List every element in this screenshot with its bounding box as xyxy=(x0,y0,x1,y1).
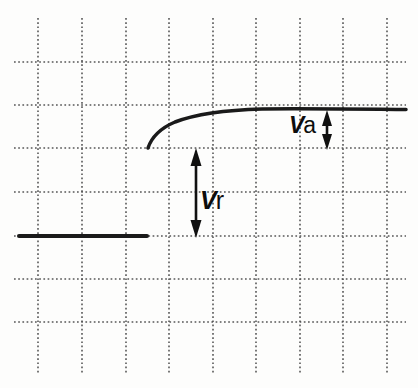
dimension-vr-arrowhead-up xyxy=(191,148,202,166)
waveform-diagram: Vr Va xyxy=(0,0,418,388)
dimension-va-symbol: V xyxy=(289,112,303,138)
dimension-va-subscript: a xyxy=(303,112,316,138)
dimension-vr-symbol: V xyxy=(200,186,216,214)
dimension-label-va: Va xyxy=(289,114,316,137)
rising-exponential-curve xyxy=(148,109,406,148)
dimension-va-arrowhead-up xyxy=(322,110,332,126)
dimension-label-vr: Vr xyxy=(200,188,224,213)
dimension-va xyxy=(322,110,332,150)
dimension-vr-subscript: r xyxy=(216,186,224,214)
